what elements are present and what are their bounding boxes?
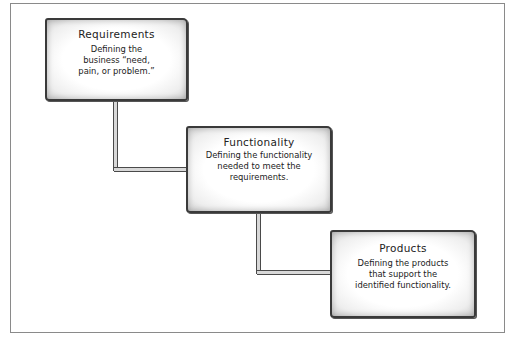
connector-requirements-functionality-vertical <box>113 99 118 171</box>
step-description-line: business “need, <box>51 55 182 66</box>
step-box-requirements: Requirements Defining the business “need… <box>45 18 188 101</box>
step-description: Defining the functionality needed to mee… <box>188 150 330 183</box>
step-title: Functionality <box>188 136 330 148</box>
step-box-products: Products Defining the products that supp… <box>330 230 476 318</box>
step-description: Defining the business “need, pain, or pr… <box>47 44 186 77</box>
step-description-line: requirements. <box>192 172 326 183</box>
connector-requirements-functionality-horizontal <box>114 167 188 172</box>
step-description-line: Defining the <box>51 44 182 55</box>
step-title: Requirements <box>47 28 186 40</box>
step-description-line: pain, or problem.” <box>51 66 182 77</box>
step-title: Products <box>332 242 474 254</box>
step-description-line: identified functionality. <box>336 280 470 291</box>
step-description: Defining the products that support the i… <box>332 258 474 291</box>
step-description-line: Defining the products <box>336 258 470 269</box>
step-box-functionality: Functionality Defining the functionality… <box>186 126 332 213</box>
connector-functionality-products-vertical <box>256 210 261 274</box>
step-description-line: that support the <box>336 269 470 280</box>
step-description-line: needed to meet the <box>192 161 326 172</box>
step-description-line: Defining the functionality <box>192 150 326 161</box>
connector-functionality-products-horizontal <box>257 270 332 275</box>
